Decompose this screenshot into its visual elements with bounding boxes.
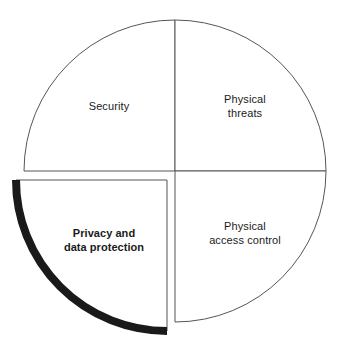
quadrant-shape-privacy-and-data-protection[interactable] [16, 180, 167, 331]
quadrant-diagram: Security Physical threats Physical acces… [0, 0, 340, 355]
quadrant-shape-security[interactable] [24, 20, 175, 171]
quadrant-label-security: Security [55, 99, 163, 113]
quadrant-circle-graphic [0, 0, 340, 355]
quadrant-label-privacy-and-data-protection: Privacy and data protection [42, 226, 166, 254]
quadrant-label-physical-access-control: Physical access control [186, 219, 304, 247]
quadrant-label-physical-threats: Physical threats [190, 92, 300, 120]
